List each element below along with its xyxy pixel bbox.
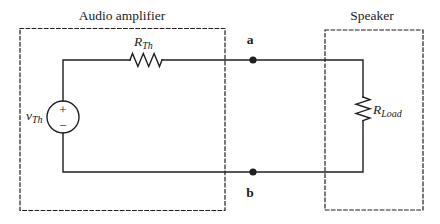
- source-vth-subscript: Th: [32, 114, 43, 125]
- resistor-rth-subscript: Th: [142, 40, 153, 51]
- wire-group: [47, 54, 370, 173]
- circuit-diagram-svg: Audio amplifier Speaker + − vTh RTh RLoa…: [0, 0, 440, 224]
- wire-source-top-to-rth: [63, 60, 130, 101]
- wire-rth-to-rload: [162, 60, 363, 97]
- audio-amplifier-boundary-box: [20, 29, 225, 211]
- terminal-a-label: a: [247, 32, 254, 47]
- plus-sign: +: [59, 102, 66, 117]
- resistor-rload-zigzag-symbol: [356, 97, 370, 121]
- wire-bottom-return: [63, 121, 363, 172]
- boundary-group: [20, 29, 423, 211]
- resistor-rload-label: RLoad: [372, 102, 403, 119]
- source-vth-label: vTh: [26, 108, 43, 125]
- thevenin-circuit-figure: Audio amplifier Speaker + − vTh RTh RLoa…: [0, 0, 440, 224]
- terminal-a-dot: [249, 56, 256, 63]
- speaker-label: Speaker: [350, 8, 394, 23]
- speaker-boundary-box: [325, 30, 423, 210]
- resistor-rth-zigzag-symbol: [130, 54, 162, 67]
- audio-amplifier-label: Audio amplifier: [79, 8, 166, 23]
- resistor-rth-label: RTh: [133, 34, 153, 51]
- terminal-b-label: b: [246, 185, 254, 200]
- terminal-b-dot: [249, 168, 256, 175]
- minus-sign: −: [59, 118, 66, 133]
- resistor-rload-subscript: Load: [380, 108, 403, 119]
